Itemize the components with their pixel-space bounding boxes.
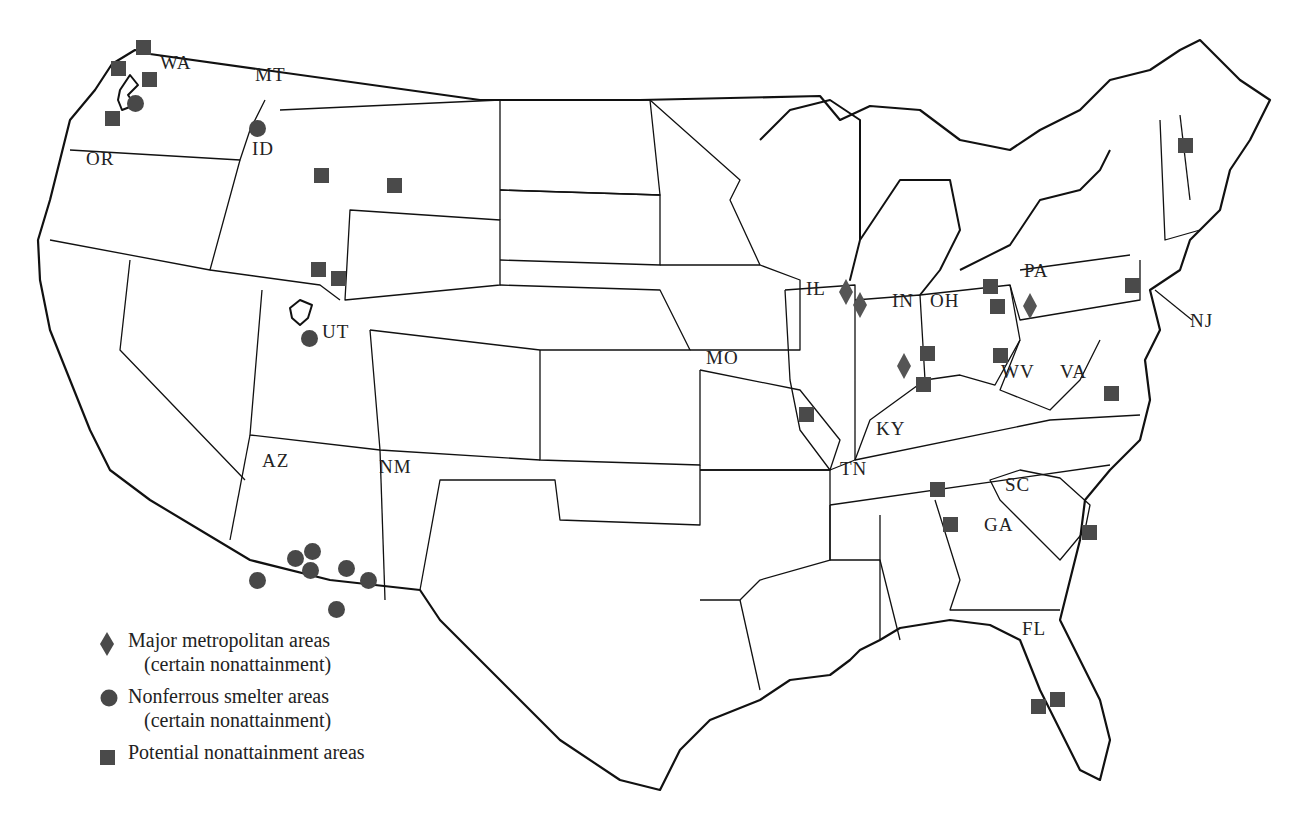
legend-item-smelter: Nonferrous smelter areas (certain nonatt… bbox=[100, 684, 365, 732]
potential-area-square-icon bbox=[1104, 386, 1119, 401]
potential-area-square-icon bbox=[990, 299, 1005, 314]
smelter-area-circle-icon bbox=[287, 550, 304, 567]
potential-area-square-icon bbox=[1125, 278, 1140, 293]
state-label-ky: KY bbox=[876, 418, 905, 440]
potential-area-square-icon bbox=[105, 111, 120, 126]
state-label-va: VA bbox=[1060, 361, 1087, 383]
diamond-icon bbox=[100, 632, 114, 661]
state-label-tn: TN bbox=[840, 458, 867, 480]
potential-area-square-icon bbox=[943, 517, 958, 532]
potential-area-square-icon bbox=[983, 279, 998, 294]
square-icon bbox=[100, 746, 115, 770]
state-label-il: IL bbox=[806, 278, 826, 300]
metropolitan-area-diamond-icon bbox=[839, 279, 853, 305]
smelter-area-circle-icon bbox=[249, 120, 266, 137]
state-label-wv: WV bbox=[1001, 361, 1035, 383]
state-label-in: IN bbox=[892, 290, 914, 312]
state-label-wa: WA bbox=[160, 52, 192, 74]
potential-area-square-icon bbox=[1031, 699, 1046, 714]
potential-area-square-icon bbox=[799, 407, 814, 422]
metropolitan-area-diamond-icon bbox=[1023, 293, 1037, 319]
potential-area-square-icon bbox=[311, 262, 326, 277]
potential-area-square-icon bbox=[1050, 692, 1065, 707]
legend-label: Nonferrous smelter areas bbox=[128, 685, 329, 707]
metropolitan-area-diamond-icon bbox=[897, 353, 911, 379]
smelter-area-circle-icon bbox=[328, 601, 345, 618]
state-label-oh: OH bbox=[930, 290, 959, 312]
smelter-area-circle-icon bbox=[301, 330, 318, 347]
smelter-area-circle-icon bbox=[249, 572, 266, 589]
state-label-pa: PA bbox=[1024, 260, 1049, 282]
smelter-area-circle-icon bbox=[127, 95, 144, 112]
potential-area-square-icon bbox=[387, 178, 402, 193]
state-label-sc: SC bbox=[1005, 474, 1030, 496]
legend-label: Potential nonattainment areas bbox=[128, 741, 365, 763]
state-label-nm: NM bbox=[379, 456, 412, 478]
potential-area-square-icon bbox=[930, 482, 945, 497]
state-label-nj: NJ bbox=[1190, 310, 1213, 332]
legend-item-metropolitan: Major metropolitan areas (certain nonatt… bbox=[100, 628, 365, 676]
map-legend: Major metropolitan areas (certain nonatt… bbox=[100, 628, 365, 772]
legend-sublabel: (certain nonattainment) bbox=[128, 652, 365, 676]
state-label-mo: MO bbox=[706, 347, 739, 369]
smelter-area-circle-icon bbox=[302, 562, 319, 579]
state-label-az: AZ bbox=[262, 450, 289, 472]
circle-icon bbox=[100, 688, 118, 712]
potential-area-square-icon bbox=[1082, 525, 1097, 540]
potential-area-square-icon bbox=[136, 40, 151, 55]
potential-area-square-icon bbox=[314, 168, 329, 183]
potential-area-square-icon bbox=[916, 377, 931, 392]
legend-label: Major metropolitan areas bbox=[128, 629, 330, 651]
smelter-area-circle-icon bbox=[338, 560, 355, 577]
metropolitan-area-diamond-icon bbox=[853, 292, 867, 318]
state-label-mt: MT bbox=[255, 64, 286, 86]
state-label-or: OR bbox=[86, 148, 114, 170]
state-label-fl: FL bbox=[1022, 618, 1046, 640]
legend-sublabel: (certain nonattainment) bbox=[128, 708, 365, 732]
potential-area-square-icon bbox=[920, 346, 935, 361]
smelter-area-circle-icon bbox=[360, 572, 377, 589]
legend-item-potential: Potential nonattainment areas bbox=[100, 740, 365, 764]
potential-area-square-icon bbox=[993, 348, 1008, 363]
potential-area-square-icon bbox=[331, 271, 346, 286]
potential-area-square-icon bbox=[1178, 138, 1193, 153]
potential-area-square-icon bbox=[111, 61, 126, 76]
potential-area-square-icon bbox=[142, 72, 157, 87]
state-label-ut: UT bbox=[322, 321, 349, 343]
smelter-area-circle-icon bbox=[304, 543, 321, 560]
state-label-id: ID bbox=[252, 138, 274, 160]
state-label-ga: GA bbox=[984, 514, 1013, 536]
